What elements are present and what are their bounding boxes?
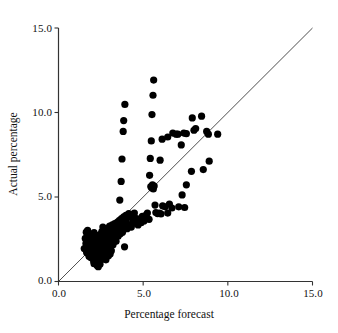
scatter-point <box>148 137 155 144</box>
scatter-point <box>198 113 205 120</box>
scatter-point <box>84 227 91 234</box>
scatter-point <box>151 202 158 209</box>
scatter-point <box>148 111 155 118</box>
scatter-point <box>147 155 154 162</box>
scatter-point <box>102 256 109 263</box>
scatter-plot-figure: 15.0 10.0 5.0 0.0 0.0 5.0 10.0 15.0 Perc… <box>0 0 338 333</box>
scatter-point <box>151 182 158 189</box>
scatter-point <box>200 166 207 173</box>
scatter-point <box>179 191 186 198</box>
scatter-point <box>192 125 199 132</box>
scatter-point <box>205 131 212 138</box>
scatter-point <box>146 172 153 179</box>
scatter-point <box>118 178 125 185</box>
scatter-point <box>120 117 127 124</box>
scatter-point <box>145 216 152 223</box>
scatter-point <box>183 130 190 137</box>
scatter-point <box>121 243 128 250</box>
x-tick-label-15: 15.0 <box>294 287 332 299</box>
scatter-point <box>214 131 221 138</box>
scatter-point <box>189 114 196 121</box>
scatter-point <box>121 101 128 108</box>
scatter-point <box>206 158 213 165</box>
y-tick-label-15: 15.0 <box>14 22 52 34</box>
scatter-point <box>116 196 123 203</box>
scatter-point <box>168 204 175 211</box>
scatter-point <box>183 181 190 188</box>
scatter-point <box>118 155 125 162</box>
scatter-point <box>96 261 103 268</box>
x-tick-label-5: 5.0 <box>125 287 163 299</box>
y-tick-label-0: 0.0 <box>14 274 52 286</box>
scatter-point <box>99 223 106 230</box>
scatter-point <box>149 92 156 99</box>
scatter-point <box>144 209 151 216</box>
scatter-point <box>120 128 127 135</box>
data-points <box>81 76 222 270</box>
scatter-point <box>157 157 164 164</box>
x-tick-label-10: 10.0 <box>210 287 248 299</box>
scatter-point <box>108 247 115 254</box>
scatter-point <box>157 210 164 217</box>
x-tick-label-0: 0.0 <box>40 287 78 299</box>
x-axis-title: Percentage forecast <box>0 308 338 320</box>
scatter-point <box>181 204 188 211</box>
y-axis-title: Actual percentage <box>7 89 19 219</box>
scatter-point <box>150 76 157 83</box>
scatter-point <box>188 168 195 175</box>
y-tick-label-5: 5.0 <box>14 190 52 202</box>
scatter-point <box>178 141 185 148</box>
y-tick-label-10: 10.0 <box>14 106 52 118</box>
